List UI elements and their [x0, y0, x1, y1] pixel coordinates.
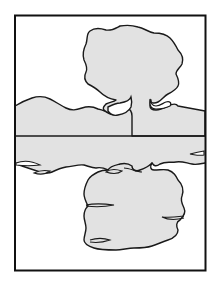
illustration: [0, 0, 216, 284]
ripple-mid: [106, 170, 122, 174]
